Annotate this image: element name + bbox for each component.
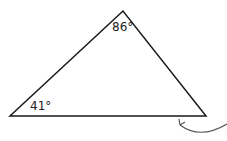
curved-arrow-icon xyxy=(179,119,227,132)
triangle-diagram: 86° 41° xyxy=(0,0,227,141)
bottom-left-angle-label: 41° xyxy=(30,99,51,113)
apex-angle-label: 86° xyxy=(112,20,133,34)
